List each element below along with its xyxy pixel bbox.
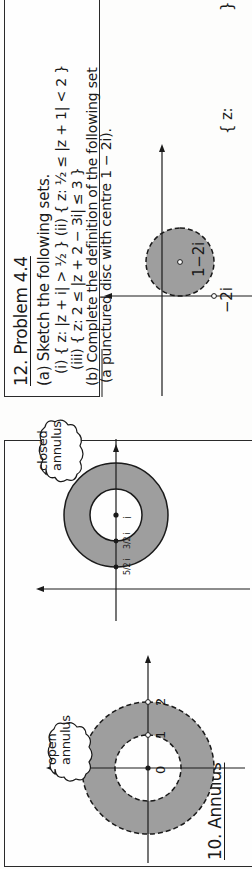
disc-point-label: −2i xyxy=(218,287,236,313)
problem-title: 12. Problem 4.4 xyxy=(11,256,31,386)
closed-centre-label: i xyxy=(119,516,137,519)
part-a: (a) Sketch the following sets. xyxy=(35,174,53,386)
scanned-page: 10. Annulus xyxy=(0,0,252,869)
closed-annulus-label: closed annulus xyxy=(36,421,64,471)
arrow-icon xyxy=(113,444,119,452)
tick-2: 2 xyxy=(152,698,170,706)
open-label-line2: annulus xyxy=(59,715,73,765)
closed-inner-label: 3/2 i xyxy=(119,532,137,549)
tick-1: 1 xyxy=(152,731,170,739)
part-b-note: (a punctured disc with centre 1 − 2i). xyxy=(97,128,115,383)
open-label-line1: open xyxy=(45,715,59,765)
arrow-icon xyxy=(36,586,44,592)
tick-0: 0 xyxy=(152,766,170,774)
arrow-icon xyxy=(159,144,165,152)
problem-panel: 12. Problem 4.4 (a) Sketch the following… xyxy=(4,0,100,397)
disc-centre-label: 1−2i xyxy=(190,242,208,277)
punctured-disc-figure xyxy=(102,144,252,397)
open-annulus-label: open annulus xyxy=(45,715,73,765)
set-suffix: } xyxy=(218,2,236,11)
set-prefix: { z: xyxy=(218,108,236,134)
closed-outer-label: 5/2 i xyxy=(119,558,137,575)
closed-label-line1: closed xyxy=(36,421,50,471)
arrow-icon xyxy=(145,655,151,663)
closed-label-line2: annulus xyxy=(50,421,64,471)
